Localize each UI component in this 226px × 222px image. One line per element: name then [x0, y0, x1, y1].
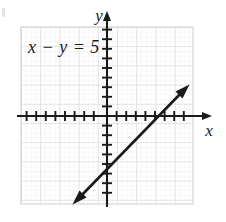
graph-figure: y x x − y = 5	[0, 0, 226, 222]
equation-label: x − y = 5	[27, 37, 100, 57]
x-axis-label: x	[204, 121, 213, 140]
coordinate-plane: y x x − y = 5	[0, 0, 226, 222]
y-axis-label: y	[93, 6, 103, 25]
